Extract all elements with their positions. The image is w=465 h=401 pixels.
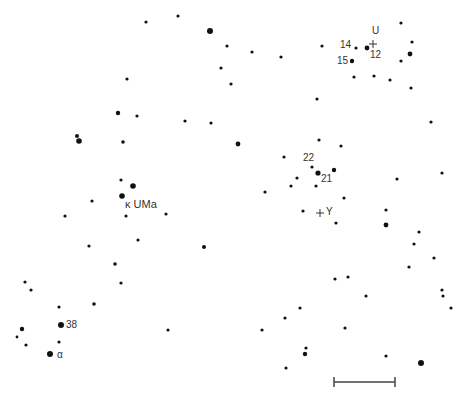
- star: [410, 40, 413, 43]
- star: [209, 121, 212, 124]
- star: [176, 14, 179, 17]
- star: [183, 119, 186, 122]
- label-variable-y: Y: [326, 207, 333, 217]
- star: [304, 346, 307, 349]
- star: [121, 140, 125, 144]
- star: [343, 326, 346, 329]
- star: [144, 20, 147, 23]
- star: [346, 275, 349, 278]
- star: [352, 75, 355, 78]
- star: [119, 281, 122, 284]
- star: [339, 144, 342, 147]
- label-alpha: α: [57, 350, 63, 360]
- star: [449, 306, 452, 309]
- label-star-12: 12: [370, 50, 381, 60]
- star: [399, 59, 402, 62]
- star: [90, 199, 93, 202]
- star: [384, 223, 389, 228]
- star: [342, 196, 345, 199]
- star: [119, 178, 122, 181]
- scale-bar: [334, 377, 395, 387]
- star: [164, 212, 167, 215]
- star: [303, 352, 307, 356]
- star: [23, 280, 26, 283]
- star: [440, 288, 443, 291]
- label-star-15: 15: [337, 56, 348, 66]
- star-field: [0, 0, 465, 401]
- label-variable-u: U: [372, 26, 379, 36]
- star: [113, 262, 117, 266]
- star: [119, 193, 125, 199]
- star: [92, 302, 96, 306]
- star: [57, 305, 60, 308]
- star: [320, 44, 323, 47]
- star: [317, 138, 320, 141]
- star: [225, 44, 228, 47]
- star: [202, 245, 206, 249]
- star: [412, 242, 415, 245]
- label-star-22: 22: [303, 153, 314, 163]
- star: [76, 138, 82, 144]
- star: [298, 306, 301, 309]
- star: [418, 360, 424, 366]
- star: [136, 238, 139, 241]
- star: [250, 50, 253, 53]
- star: [315, 170, 320, 175]
- star: [284, 366, 287, 369]
- star: [282, 155, 285, 158]
- star: [16, 336, 19, 339]
- star: [87, 244, 90, 247]
- star: [399, 21, 402, 24]
- star: [24, 343, 27, 346]
- star: [279, 55, 282, 58]
- star: [432, 256, 435, 259]
- star: [441, 294, 444, 297]
- star: [260, 328, 263, 331]
- star: [289, 184, 292, 187]
- star: [384, 208, 387, 211]
- star: [283, 316, 286, 319]
- star: [295, 176, 298, 179]
- star: [395, 177, 398, 180]
- star: [372, 74, 375, 77]
- star: [384, 354, 387, 357]
- star: [429, 120, 432, 123]
- star: [29, 288, 32, 291]
- star: [417, 230, 420, 233]
- star-chart: U 14 12 15 22 21 κ UMa Y 38 α: [0, 0, 465, 401]
- star: [409, 86, 412, 89]
- star: [236, 142, 241, 147]
- label-kappa-uma: κ UMa: [125, 199, 157, 210]
- star: [354, 46, 357, 49]
- star: [364, 294, 367, 297]
- star: [314, 184, 317, 187]
- star: [440, 171, 443, 174]
- star: [207, 28, 213, 34]
- star: [350, 59, 354, 63]
- label-star-38: 38: [66, 320, 77, 330]
- star: [75, 134, 79, 138]
- star: [58, 322, 64, 328]
- star: [332, 168, 336, 172]
- star: [57, 340, 60, 343]
- star: [130, 183, 136, 189]
- star: [125, 77, 128, 80]
- star: [334, 221, 337, 224]
- star: [47, 351, 53, 357]
- star: [333, 277, 336, 280]
- star: [310, 165, 313, 168]
- star: [135, 114, 138, 117]
- star: [124, 214, 127, 217]
- label-star-14: 14: [340, 40, 351, 50]
- star: [365, 46, 370, 51]
- label-star-21: 21: [321, 174, 332, 184]
- star: [301, 209, 304, 212]
- variable-star-cross-y: [316, 209, 324, 217]
- star: [20, 327, 24, 331]
- star: [166, 328, 169, 331]
- star: [388, 78, 391, 81]
- variable-star-cross-u: [369, 40, 377, 48]
- star: [229, 82, 232, 85]
- star: [219, 66, 222, 69]
- star: [408, 52, 413, 57]
